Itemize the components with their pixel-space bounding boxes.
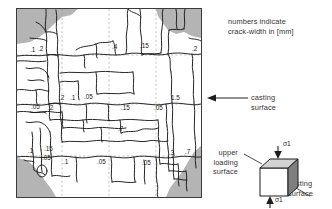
crack-width-label: .2: [59, 94, 64, 101]
crack-pattern-figure: .1 .2 .4 .15 .2 .05 .2 .2 .1 .05 .15 .05…: [0, 0, 332, 209]
note-line-2: crack-width in [mm]: [228, 27, 294, 37]
crack-width-label: .2: [48, 104, 53, 111]
crack-width-label: .1: [30, 46, 35, 53]
sigma-bottom-arrowhead: [266, 196, 274, 204]
crack-width-note: numbers indicate crack-width in [mm]: [228, 17, 294, 36]
sigma-top-label: σ1: [283, 140, 291, 147]
casting-surface-label: casting surface: [251, 93, 276, 112]
crack-width-label: .2: [192, 45, 197, 52]
crack-width-label: .7: [185, 148, 190, 155]
upper-label-line-3: surface: [213, 167, 238, 177]
crack-width-label: 1.5: [171, 94, 180, 101]
crack-width-label: .05: [154, 104, 163, 111]
casting-leader-line: [296, 188, 310, 196]
crack-width-label: .05: [84, 93, 93, 100]
crack-width-label: .15: [44, 145, 53, 152]
crack-width-label: .3: [169, 149, 174, 156]
sigma-bottom-label: σ1: [275, 196, 283, 203]
cube-schematic: [240, 140, 332, 209]
cube-front-face: [260, 168, 288, 196]
crack-width-label: .1: [70, 94, 75, 101]
crack-width-label: .05: [142, 159, 151, 166]
crack-width-label: .2: [38, 45, 43, 52]
upper-leader-line: [244, 154, 262, 164]
crack-width-label: .15: [140, 42, 149, 49]
upper-label-line-2: loading: [213, 158, 238, 168]
crack-width-label: .05: [31, 103, 40, 110]
crack-width-label: .1: [28, 147, 33, 154]
crack-map-drawing: [16, 8, 202, 198]
casting-label-line-2: surface: [251, 103, 276, 113]
upper-label-line-1: upper: [213, 148, 238, 158]
crack-width-label: .05: [42, 154, 51, 161]
crack-width-label: .05: [97, 158, 106, 165]
sigma-top-arrowhead: [274, 151, 282, 159]
note-line-1: numbers indicate: [228, 17, 294, 27]
crack-map-panel: .1 .2 .4 .15 .2 .05 .2 .2 .1 .05 .15 .05…: [16, 8, 202, 198]
casting-surface-arrow-icon: [206, 92, 250, 104]
crack-width-label: .15: [121, 104, 130, 111]
casting-label-line-1: casting: [251, 93, 276, 103]
crack-width-label: .4: [112, 43, 117, 50]
crack-width-label: .1: [63, 158, 68, 165]
upper-loading-surface-label: upper loading surface: [213, 148, 238, 177]
crack-width-label: .7: [118, 125, 123, 132]
